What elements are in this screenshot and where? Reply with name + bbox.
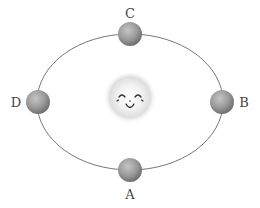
planet-d — [26, 90, 50, 114]
planet-c — [118, 22, 142, 46]
planet-b — [210, 90, 234, 114]
orbit-diagram: A B C D — [0, 0, 260, 208]
orbit-diagram-canvas: A B C D — [0, 0, 260, 208]
label-c: C — [125, 6, 135, 21]
label-a: A — [124, 187, 135, 202]
sun-glow — [103, 73, 157, 127]
planet-a — [118, 158, 142, 182]
label-d: D — [11, 95, 21, 110]
sun — [103, 73, 157, 127]
nose-dot — [129, 100, 131, 102]
label-b: B — [239, 95, 249, 110]
